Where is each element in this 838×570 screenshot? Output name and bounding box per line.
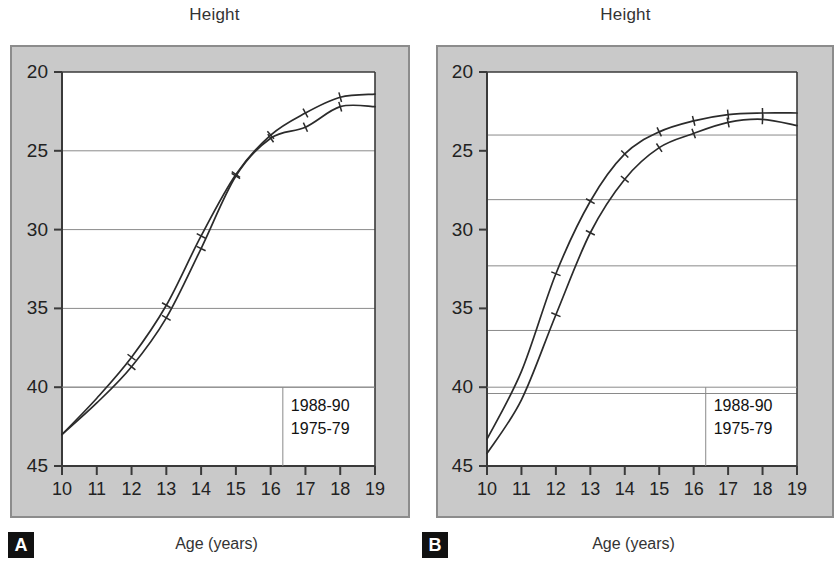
y-tick-label: 35 <box>8 297 48 319</box>
x-tick-label: 13 <box>575 479 605 500</box>
x-tick-label: 16 <box>679 479 709 500</box>
y-tick-label: 20 <box>8 61 48 83</box>
x-tick-label: 14 <box>610 479 640 500</box>
panel-b-badge: B <box>422 532 448 558</box>
panel-b-plot: 454035302520101112131415161718191988-901… <box>419 0 838 570</box>
panel-a-plot: 454035302520101112131415161718191988-901… <box>0 0 419 570</box>
x-tick-label: 10 <box>47 479 77 500</box>
panel-a-badge: A <box>8 532 34 558</box>
panel-a-xaxis-label: Age (years) <box>0 535 419 553</box>
legend-entry-1: 1988-90 <box>291 397 350 415</box>
x-tick-label: 12 <box>541 479 571 500</box>
y-tick-label: 30 <box>433 219 473 241</box>
y-tick-label: 25 <box>433 140 473 162</box>
legend-entry-2: 1975-79 <box>714 420 773 438</box>
y-tick-label: 40 <box>433 376 473 398</box>
panel-b: Height 454035302520101112131415161718191… <box>419 0 838 570</box>
x-tick-label: 10 <box>472 479 502 500</box>
y-tick-label: 35 <box>433 297 473 319</box>
x-tick-label: 15 <box>644 479 674 500</box>
legend-entry-2: 1975-79 <box>291 420 350 438</box>
x-tick-label: 17 <box>713 479 743 500</box>
x-tick-label: 14 <box>186 479 216 500</box>
y-tick-label: 40 <box>8 376 48 398</box>
panel-b-xaxis-label: Age (years) <box>419 535 838 553</box>
y-tick-label: 20 <box>433 61 473 83</box>
x-tick-label: 15 <box>221 479 251 500</box>
x-tick-label: 11 <box>506 479 536 500</box>
x-tick-label: 19 <box>782 479 812 500</box>
legend-entry-1: 1988-90 <box>714 397 773 415</box>
x-tick-label: 16 <box>256 479 286 500</box>
x-tick-label: 18 <box>325 479 355 500</box>
x-tick-label: 19 <box>360 479 390 500</box>
x-tick-label: 11 <box>82 479 112 500</box>
x-tick-label: 18 <box>748 479 778 500</box>
y-tick-label: 45 <box>8 455 48 477</box>
x-tick-label: 13 <box>151 479 181 500</box>
y-tick-label: 45 <box>433 455 473 477</box>
y-tick-label: 30 <box>8 219 48 241</box>
panel-a: Height 454035302520101112131415161718191… <box>0 0 419 570</box>
y-tick-label: 25 <box>8 140 48 162</box>
x-tick-label: 17 <box>290 479 320 500</box>
x-tick-label: 12 <box>117 479 147 500</box>
